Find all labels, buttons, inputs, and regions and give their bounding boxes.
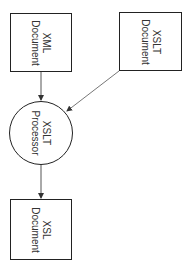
xsl-document-line2: Document	[30, 207, 41, 253]
xslt-document-line2: Document	[140, 19, 151, 65]
xslt-processor-line2: Processor	[30, 110, 41, 155]
xslt-processor-line1: XSLT	[41, 110, 52, 155]
xslt-document-line1: XSLT	[151, 19, 162, 65]
xsl-document-line1: XSL	[41, 207, 52, 253]
xml-document-node: XML Document	[10, 13, 72, 72]
xml-document-line1: XML	[41, 20, 52, 66]
xsl-document-node: XSL Document	[10, 199, 72, 260]
xml-document-line2: Document	[30, 20, 41, 66]
xslt-processor-node: XSLT Processor	[9, 101, 73, 165]
xsl-document-label: XSL Document	[30, 207, 52, 253]
xslt-processor-label: XSLT Processor	[30, 110, 52, 155]
xslt-document-node: XSLT Document	[119, 12, 182, 71]
xml-document-label: XML Document	[30, 20, 52, 66]
edge-xslt-to-processor	[67, 71, 119, 111]
xslt-document-label: XSLT Document	[140, 19, 162, 65]
